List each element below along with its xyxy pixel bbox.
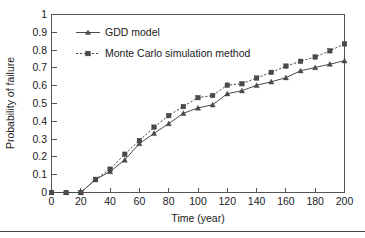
x-tick-label: 140 (248, 195, 266, 207)
x-tick-label: 120 (219, 195, 237, 207)
x-tick-label: 0 (49, 195, 55, 207)
series-layer (49, 42, 347, 195)
figure-container: 0 0.1 0.2 0.3 0.4 0.5 0.6 0.7 0.8 0.9 1 … (0, 0, 365, 238)
x-tick-label: 100 (189, 195, 207, 207)
probability-of-failure-chart: 0 0.1 0.2 0.3 0.4 0.5 0.6 0.7 0.8 0.9 1 … (0, 0, 365, 238)
square-marker-icon (49, 190, 54, 195)
square-marker-icon (137, 138, 142, 143)
square-marker-icon (64, 190, 69, 195)
series-line (52, 61, 345, 193)
x-tick-label: 200 (336, 195, 354, 207)
square-marker-icon (210, 93, 215, 98)
x-tick-label: 160 (277, 195, 295, 207)
legend-entry-monte-carlo[interactable]: Monte Carlo simulation method (76, 47, 250, 59)
y-axis-title: Probability of failure (4, 57, 16, 149)
square-marker-icon (254, 76, 259, 81)
y-tick-label: 0.9 (32, 26, 47, 38)
y-tick-label: 0.6 (32, 79, 47, 91)
y-tick-label: 0.3 (32, 133, 47, 145)
square-marker-icon (108, 167, 113, 172)
x-tick-label: 20 (75, 195, 87, 207)
square-marker-icon (313, 55, 318, 60)
square-marker-icon (122, 152, 127, 157)
square-marker-icon (93, 177, 98, 182)
y-tick-label: 0.4 (32, 115, 47, 127)
y-tick-label: 0.2 (32, 150, 47, 162)
triangle-marker-icon (151, 131, 156, 136)
series-gdd-model (49, 58, 347, 195)
x-tick-label: 60 (134, 195, 146, 207)
square-marker-icon (152, 125, 157, 130)
triangle-marker-icon (283, 75, 288, 80)
square-marker-icon (196, 95, 201, 100)
x-tick-label: 180 (306, 195, 324, 207)
y-tick-label: 0.1 (32, 168, 47, 180)
legend-label: GDD model (105, 26, 160, 38)
square-marker-icon (342, 42, 347, 47)
square-marker-icon (225, 83, 230, 88)
square-marker-icon (181, 104, 186, 109)
x-tick-label: 40 (104, 195, 116, 207)
square-marker-icon (86, 51, 91, 56)
y-tick-label: 1 (41, 8, 47, 20)
square-marker-icon (284, 64, 289, 69)
x-tick-labels: 0 20 40 60 80 100 120 140 160 180 200 (49, 195, 354, 207)
legend-entry-gdd-model[interactable]: GDD model (76, 26, 160, 38)
y-tick-label: 0.5 (32, 97, 47, 109)
x-axis-title: Time (year) (171, 212, 224, 224)
square-marker-icon (79, 190, 84, 195)
triangle-marker-icon (342, 58, 347, 63)
square-marker-icon (240, 81, 245, 86)
legend-label: Monte Carlo simulation method (105, 47, 250, 59)
square-marker-icon (298, 59, 303, 64)
plot-frame (52, 15, 345, 193)
square-marker-icon (166, 113, 171, 118)
square-marker-icon (269, 70, 274, 75)
y-tick-label: 0.7 (32, 61, 47, 73)
legend: GDD model Monte Carlo simulation method (76, 26, 250, 59)
y-tick-labels: 0 0.1 0.2 0.3 0.4 0.5 0.6 0.7 0.8 0.9 1 (32, 8, 47, 198)
series-line (52, 44, 345, 193)
x-axis-ticks (52, 188, 345, 193)
y-axis-ticks (52, 15, 57, 193)
square-marker-icon (328, 49, 333, 54)
x-tick-label: 80 (163, 195, 175, 207)
y-tick-label: 0 (41, 186, 47, 198)
series-monte-carlo (49, 42, 347, 195)
y-tick-label: 0.8 (32, 44, 47, 56)
